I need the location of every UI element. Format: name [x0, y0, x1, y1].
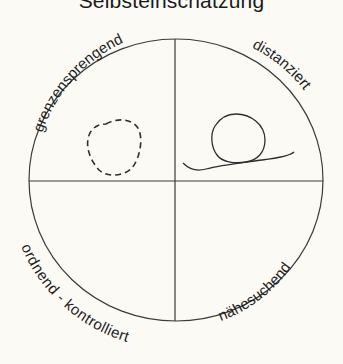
quadrant-circle-diagram: grenzensprengend distanziert ordnend - k… — [0, 0, 343, 364]
label-grenzensprengend: grenzensprengend — [29, 30, 125, 134]
dashed-circle-drawing — [88, 120, 141, 175]
solid-circle-drawing — [212, 114, 265, 163]
label-naehesuchend: nähesuchend — [216, 259, 294, 324]
label-ordnend-kontrolliert: ordnend - kontrolliert — [18, 241, 132, 345]
baseline-stroke-drawing — [183, 152, 294, 170]
